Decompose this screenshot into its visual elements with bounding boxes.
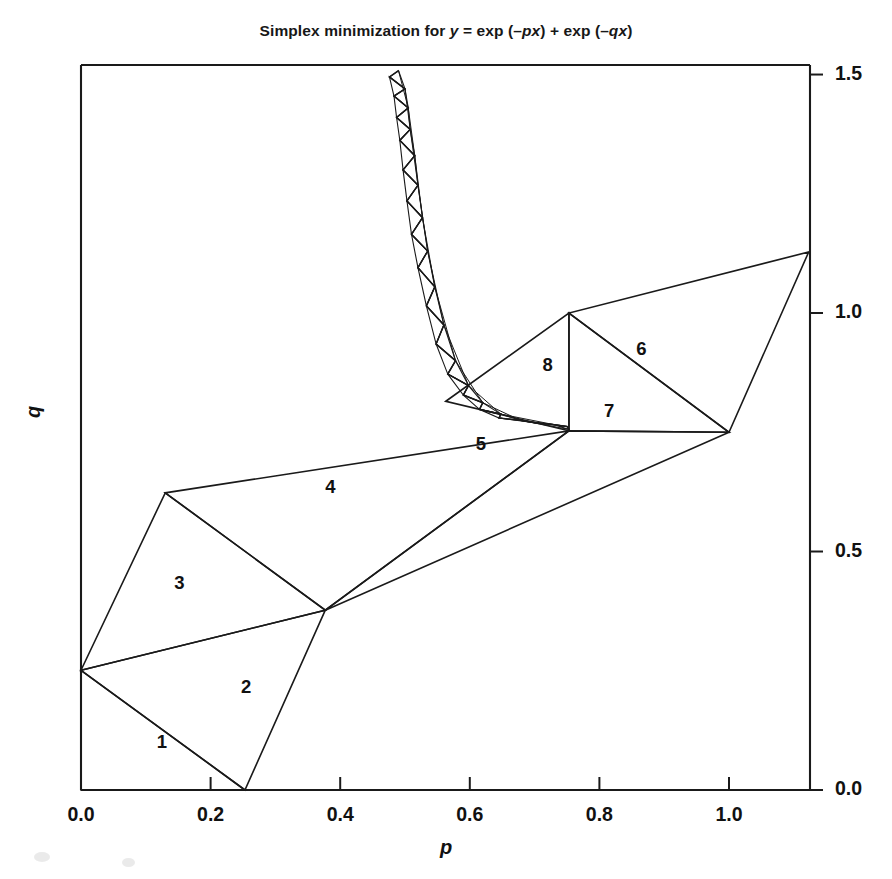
y-tick-label: 1.5	[835, 62, 862, 85]
x-axis-label: p	[0, 836, 892, 859]
x-tick-label: 0.2	[197, 803, 224, 826]
x-tick-label: 1.0	[715, 803, 742, 826]
y-tick-label: 0.5	[835, 539, 862, 562]
region-label-5: 5	[476, 433, 486, 455]
y-tick-label: 0.0	[835, 777, 862, 800]
plot-area	[0, 0, 892, 879]
trail-chord	[456, 361, 483, 403]
region-label-2: 2	[241, 676, 251, 698]
trail-chord	[444, 325, 469, 386]
trail-chord	[408, 108, 414, 156]
simplex-polygon-3	[81, 493, 325, 670]
region-label-1: 1	[157, 731, 167, 753]
scan-artifact-2	[122, 858, 135, 867]
region-label-4: 4	[325, 476, 335, 498]
simplex-polygon-4	[165, 431, 569, 610]
y-tick-label: 1.0	[835, 300, 862, 323]
x-tick-label: 0.4	[327, 803, 354, 826]
simplex-polygon-5	[325, 431, 729, 610]
trail-chord	[428, 251, 444, 325]
simplex-polygon-7	[569, 313, 729, 432]
region-label-7: 7	[604, 400, 614, 422]
simplex-minimization-figure: Simplex minimization for y = exp (–px) +…	[0, 0, 892, 879]
scan-artifact-1	[34, 852, 50, 862]
region-label-8: 8	[542, 354, 552, 376]
x-tick-label: 0.8	[586, 803, 613, 826]
y-axis-label: q	[22, 406, 45, 418]
simplex-polygon-2	[81, 610, 325, 790]
trail-simplex	[411, 234, 427, 267]
x-tick-label: 0.0	[67, 803, 94, 826]
trail-simplex	[426, 287, 443, 325]
region-label-6: 6	[636, 338, 646, 360]
x-tick-label: 0.6	[456, 803, 483, 826]
region-label-3: 3	[174, 572, 184, 594]
axis-frame	[81, 65, 810, 790]
simplex-polygons	[81, 71, 809, 790]
